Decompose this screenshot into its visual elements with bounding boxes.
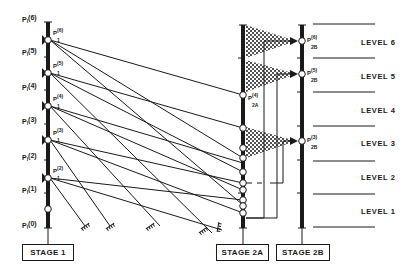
svg-text:P(4): P(4) — [248, 92, 258, 101]
pressure-label-3: Pl(3) — [22, 116, 37, 126]
node-labels: P(6)1 P(5)1 P(4)1 P(3)1 P(2)1 P(4)2A P(6… — [53, 27, 318, 181]
svg-text:P(5): P(5) — [53, 60, 63, 69]
pressure-label-5: Pl(5) — [22, 47, 37, 57]
pressure-label-4: Pl(4) — [22, 82, 37, 92]
svg-text:2B: 2B — [311, 77, 318, 83]
level-6-label: LEVEL 6 — [361, 38, 396, 47]
svg-text:P(5): P(5) — [307, 67, 317, 76]
svg-text:1: 1 — [57, 37, 60, 43]
level-3-label: LEVEL 3 — [361, 139, 396, 148]
diagram-canvas: Pl(6) Pl(5) Pl(4) Pl(3) Pl(2) Pl(1) Pl(0… — [0, 0, 415, 275]
level-divider-lines — [313, 24, 375, 227]
pressure-label-6: Pl(6) — [22, 14, 37, 24]
svg-text:2B: 2B — [311, 144, 318, 150]
svg-text:1: 1 — [57, 175, 60, 181]
arrowheads — [290, 37, 298, 145]
pressure-label-0: Pl(0) — [22, 220, 37, 230]
stage-2b-box: STAGE 2B — [276, 244, 330, 261]
stage1-pressure-labels: Pl(6) Pl(5) Pl(4) Pl(3) Pl(2) Pl(1) Pl(0… — [22, 14, 37, 230]
level-2-label: LEVEL 2 — [361, 173, 396, 182]
svg-text:P(3): P(3) — [307, 134, 317, 143]
pressure-label-1: Pl(1) — [22, 185, 37, 195]
level-1-label: LEVEL 1 — [361, 207, 396, 216]
nodes — [45, 37, 306, 217]
svg-text:1: 1 — [57, 137, 60, 143]
stage-1-box: STAGE 1 — [22, 244, 74, 261]
stage2b-pole — [297, 25, 306, 245]
level-4-label: LEVEL 4 — [361, 106, 396, 115]
svg-text:P(2): P(2) — [53, 165, 63, 174]
stage1-connection-lines — [50, 40, 243, 233]
level-5-label: LEVEL 5 — [361, 72, 396, 81]
svg-text:2B: 2B — [311, 44, 318, 50]
svg-text:1: 1 — [57, 70, 60, 76]
svg-text:P(3): P(3) — [53, 127, 63, 136]
svg-text:2A: 2A — [252, 102, 259, 108]
svg-text:P(6): P(6) — [53, 27, 63, 36]
pressure-label-2: Pl(2) — [22, 152, 37, 162]
svg-text:1: 1 — [57, 103, 60, 109]
svg-text:P(6): P(6) — [307, 34, 317, 43]
svg-text:P(4): P(4) — [53, 93, 63, 102]
stage-2a-box: STAGE 2A — [216, 244, 269, 261]
